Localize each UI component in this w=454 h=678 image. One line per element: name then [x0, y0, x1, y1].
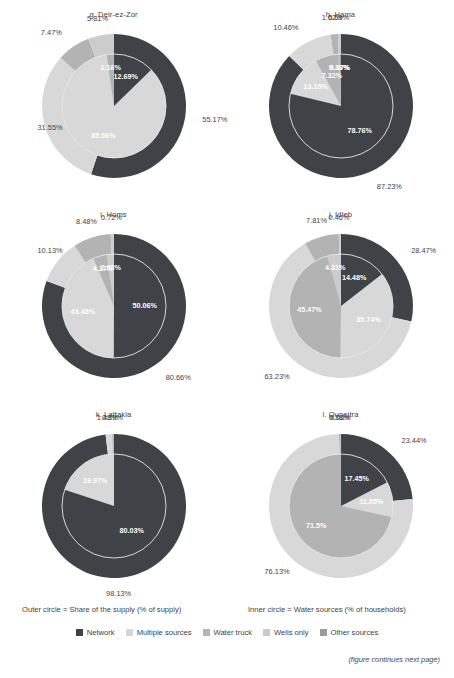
inner-label-idleb-1: 35.74%: [350, 315, 386, 324]
inner-label-lattakia-1: 19.97%: [77, 476, 113, 485]
legend-label-0: Network: [87, 628, 115, 637]
outer-label-idleb-1: 63.23%: [265, 372, 287, 381]
inner-label-hama-4: 0.37%: [322, 63, 358, 72]
inner-label-homs-0: 50.06%: [127, 301, 163, 310]
inner-label-idleb-0: 14.48%: [336, 273, 372, 282]
inner-label-quneitra-1: 11.05%: [353, 497, 389, 506]
outer-label-idleb-0: 28.47%: [411, 246, 436, 255]
figure-continues-note: (figure continues next page): [348, 655, 440, 664]
inner-label-deir-ez-zor-1: 85.06%: [85, 131, 121, 140]
legend-item-2: Water truck: [203, 628, 253, 637]
outer-label-homs-0: 80.66%: [166, 373, 191, 382]
legend-item-0: Network: [76, 628, 115, 637]
pie-panel-quneitra: l. Quneitra23.44%76.13%0.38%0.06%17.45%1…: [227, 400, 454, 600]
donut-homs: 80.66%10.13%8.48%0.72%50.06%43.48%4.17%2…: [38, 230, 190, 382]
outer-label-homs-1: 10.13%: [38, 246, 43, 255]
pie-panel-hama: h. Hama87.23%10.46%1.62%0.69%78.76%13.19…: [227, 0, 454, 200]
inner-label-deir-ez-zor-2: 2.16%: [93, 63, 129, 72]
legend-swatch-icon-2: [203, 629, 210, 636]
donut-deir-ez-zor: 55.17%31.55%7.47%5.81%12.69%85.06%2.16%: [38, 30, 190, 182]
pie-panel-deir-ez-zor: g. Deir-ez-Zor55.17%31.55%7.47%5.81%12.6…: [0, 0, 227, 200]
legend-label-3: Wells only: [274, 628, 308, 637]
outer-label-deir-ez-zor-3: 5.81%: [80, 14, 116, 23]
outer-label-hama-1: 10.46%: [265, 23, 299, 32]
pie-panel-homs: i. Homs80.66%10.13%8.48%0.72%50.06%43.48…: [0, 200, 227, 400]
donut-hama: 87.23%10.46%1.62%0.69%78.76%13.19%7.32%0…: [265, 30, 417, 182]
inner-label-hama-2: 7.32%: [314, 71, 350, 80]
legend-item-1: Multiple sources: [126, 628, 192, 637]
outer-label-quneitra-1: 76.13%: [265, 567, 281, 576]
outer-label-idleb-3: 0.46%: [321, 213, 357, 222]
legend-swatch-icon-3: [263, 629, 270, 636]
legend-label-4: Other sources: [331, 628, 379, 637]
legend-swatch-icon-1: [126, 629, 133, 636]
pie-chart-grid: g. Deir-ez-Zor55.17%31.55%7.47%5.81%12.6…: [0, 0, 454, 600]
inner-label-idleb-3: 4.31%: [317, 263, 353, 272]
outer-circle-caption: Outer circle = Share of the supply (% of…: [22, 605, 181, 614]
inner-label-homs-3: 2.28%: [93, 263, 129, 272]
legend-label-1: Multiple sources: [137, 628, 192, 637]
outer-label-quneitra-0: 23.44%: [402, 436, 427, 445]
outer-label-quneitra-3: 0.06%: [322, 413, 358, 422]
figure-footer: Outer circle = Share of the supply (% of…: [0, 600, 454, 678]
inner-label-homs-1: 43.48%: [65, 307, 101, 316]
inner-label-hama-1: 13.19%: [298, 82, 334, 91]
inner-label-quneitra-0: 17.45%: [339, 474, 375, 483]
legend-item-4: Other sources: [320, 628, 379, 637]
outer-label-hama-3: 0.69%: [321, 13, 357, 22]
inner-label-hama-0: 78.76%: [342, 126, 378, 135]
donut-idleb: 28.47%63.23%7.81%0.46%14.48%35.74%45.47%…: [265, 230, 417, 382]
outer-label-deir-ez-zor-2: 7.47%: [38, 28, 62, 37]
pie-panel-lattakia: k. Lattakia98.13%1.48%0.39%80.03%19.97%: [0, 400, 227, 600]
pie-panel-idleb: j. Idleb28.47%63.23%7.81%0.46%14.48%35.7…: [227, 200, 454, 400]
legend-item-3: Wells only: [263, 628, 308, 637]
outer-label-hama-0: 87.23%: [377, 182, 402, 191]
inner-label-idleb-2: 45.47%: [292, 305, 328, 314]
inner-label-lattakia-0: 80.03%: [114, 526, 150, 535]
donut-quneitra: 23.44%76.13%0.38%0.06%17.45%11.05%71.5%: [265, 430, 417, 582]
outer-label-lattakia-2: 0.39%: [94, 413, 130, 422]
legend-swatch-icon-0: [76, 629, 83, 636]
outer-label-deir-ez-zor-0: 55.17%: [202, 115, 227, 124]
outer-label-homs-3: 0.72%: [93, 213, 129, 222]
legend: NetworkMultiple sourcesWater truckWells …: [0, 628, 454, 637]
donut-lattakia: 98.13%1.48%0.39%80.03%19.97%: [38, 430, 190, 582]
outer-label-deir-ez-zor-1: 31.55%: [38, 123, 63, 132]
inner-label-quneitra-2: 71.5%: [298, 521, 334, 530]
legend-swatch-icon-4: [320, 629, 327, 636]
inner-label-deir-ez-zor-0: 12.69%: [108, 72, 144, 81]
inner-circle-caption: Inner circle = Water sources (% of house…: [248, 605, 406, 614]
legend-label-2: Water truck: [214, 628, 253, 637]
outer-label-lattakia-0: 98.13%: [101, 589, 137, 598]
